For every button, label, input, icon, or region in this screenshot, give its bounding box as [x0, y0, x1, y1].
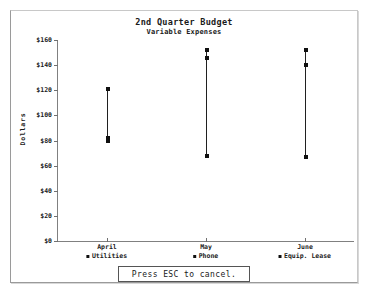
- data-point-marker: [106, 87, 110, 91]
- y-axis-tick-label: $140: [20, 61, 52, 69]
- y-axis-tick-label: $120: [20, 86, 52, 94]
- y-axis-tick-label-text: $120: [22, 86, 52, 94]
- y-axis-tick-label-text: $20: [22, 212, 52, 220]
- legend-swatch-icon: [278, 255, 281, 258]
- x-axis-tick: [305, 238, 306, 242]
- y-axis-tick: [54, 191, 58, 192]
- y-axis-tick-label-text: $160: [22, 36, 52, 44]
- y-axis-tick: [54, 65, 58, 66]
- y-axis-tick: [54, 115, 58, 116]
- x-axis-tick: [206, 238, 207, 242]
- y-axis-tick-label: $20: [20, 212, 52, 220]
- y-axis-tick-label-text: $80: [22, 137, 52, 145]
- plot-area: Dollars $160$140$120$100$80$60$40$20$0 A…: [0, 0, 368, 290]
- y-axis-tick: [54, 241, 58, 242]
- range-connector-line: [206, 50, 207, 156]
- legend-item: Utilities: [86, 252, 127, 260]
- x-axis-category-label: June: [270, 243, 340, 251]
- x-axis-tick: [107, 238, 108, 242]
- legend-swatch-icon: [193, 255, 196, 258]
- y-axis-tick-label-text: $40: [22, 187, 52, 195]
- legend-swatch-icon: [86, 255, 89, 258]
- data-point-marker: [304, 155, 308, 159]
- legend-item-label: Equip. Lease: [284, 252, 331, 260]
- y-axis-tick-label: $60: [20, 162, 52, 170]
- legend-item-label: Phone: [199, 252, 219, 260]
- x-axis-category-label: April: [72, 243, 142, 251]
- y-axis-tick-label: $160: [20, 36, 52, 44]
- chart-legend: UtilitiesPhoneEquip. Lease: [57, 252, 354, 262]
- y-axis-tick-label-text: $0: [22, 237, 52, 245]
- y-axis-tick-label-text: $60: [22, 162, 52, 170]
- y-axis-tick-label: $40: [20, 187, 52, 195]
- y-axis-tick-label: $0: [20, 237, 52, 245]
- legend-item-label: Utilities: [92, 252, 127, 260]
- y-axis-tick: [54, 90, 58, 91]
- data-point-marker: [205, 48, 209, 52]
- data-point-marker: [205, 56, 209, 60]
- legend-item: Equip. Lease: [278, 252, 331, 260]
- y-axis-tick-label-text: $100: [22, 111, 52, 119]
- chart-screen: 2nd Quarter Budget Variable Expenses Dol…: [0, 0, 368, 290]
- y-axis-tick-label: $80: [20, 137, 52, 145]
- x-axis-category-label: May: [171, 243, 241, 251]
- y-axis-tick: [54, 166, 58, 167]
- y-axis-tick: [54, 40, 58, 41]
- y-axis-tick-label-text: $140: [22, 61, 52, 69]
- y-axis-title: Dollars: [19, 99, 27, 159]
- data-point-marker: [304, 63, 308, 67]
- y-axis-tick: [54, 216, 58, 217]
- data-point-marker: [304, 48, 308, 52]
- data-point-marker: [205, 154, 209, 158]
- y-axis-tick: [54, 141, 58, 142]
- data-point-marker: [106, 136, 110, 140]
- y-axis-tick-label: $100: [20, 111, 52, 119]
- range-connector-line: [107, 89, 108, 142]
- cancel-button[interactable]: Press ESC to cancel.: [118, 266, 250, 282]
- legend-item: Phone: [193, 252, 219, 260]
